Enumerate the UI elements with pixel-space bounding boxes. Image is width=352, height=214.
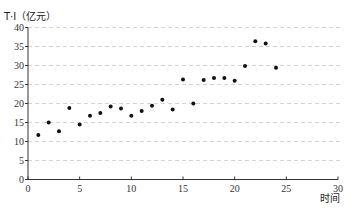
data-point [36, 133, 40, 137]
y-tick-label: 35 [14, 41, 24, 52]
x-tick-label: 0 [26, 183, 31, 194]
data-point [98, 111, 102, 115]
data-point [253, 39, 257, 43]
y-tick-label: 30 [14, 60, 24, 71]
data-point [171, 108, 175, 112]
x-tick-label: 10 [126, 183, 136, 194]
y-tick-label: 10 [14, 136, 24, 147]
x-tick-label: 5 [77, 183, 82, 194]
data-point [119, 106, 123, 110]
y-axis-title: T·I（亿元） [3, 10, 56, 22]
data-point [264, 41, 268, 45]
data-point [274, 66, 278, 70]
data-point [67, 106, 71, 110]
data-point [78, 122, 82, 126]
y-tick-label: 40 [14, 22, 24, 33]
data-point [191, 102, 195, 106]
data-point [212, 76, 216, 80]
data-point [88, 114, 92, 118]
x-tick-label: 25 [281, 183, 291, 194]
y-axis-ticks: 0510152025303540 [14, 22, 28, 185]
data-point [140, 109, 144, 113]
data-point [47, 121, 51, 125]
data-point [202, 78, 206, 82]
data-point [233, 79, 237, 83]
data-point [150, 104, 154, 108]
y-tick-label: 5 [19, 155, 24, 166]
data-point [181, 78, 185, 82]
y-tick-label: 25 [14, 79, 24, 90]
data-point [243, 64, 247, 68]
gridlines [28, 28, 342, 161]
x-tick-label: 30 [333, 183, 343, 194]
y-tick-label: 15 [14, 117, 24, 128]
x-tick-label: 20 [230, 183, 240, 194]
y-tick-label: 0 [19, 174, 24, 185]
data-point [129, 114, 133, 118]
x-axis-title: 时间 [320, 192, 340, 204]
data-point [222, 76, 226, 80]
y-tick-label: 20 [14, 98, 24, 109]
data-point [57, 129, 61, 133]
scatter-chart: 0510152025303540 051015202530 T·I（亿元） 时间 [0, 0, 352, 214]
data-point [160, 98, 164, 102]
x-tick-label: 15 [178, 183, 188, 194]
data-point [109, 105, 113, 109]
